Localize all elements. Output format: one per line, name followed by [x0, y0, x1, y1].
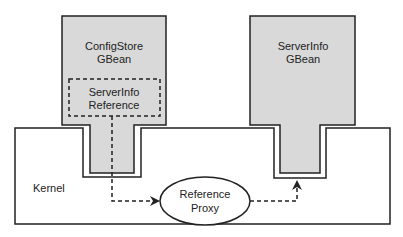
config-store-label-line2: GBean — [97, 53, 131, 65]
gbean-reference-diagram: ConfigStore GBean ServerInfo Reference S… — [0, 0, 403, 237]
reference-proxy-label-line2: Proxy — [191, 202, 220, 214]
reference-proxy-label-line1: Reference — [180, 188, 231, 200]
kernel-label: Kernel — [33, 182, 65, 194]
server-info-reference-label-line1: ServerInfo — [89, 86, 140, 98]
server-info-label-line1: ServerInfo — [278, 40, 329, 52]
server-info-reference-label-line2: Reference — [89, 99, 140, 111]
config-store-label-line1: ConfigStore — [85, 40, 143, 52]
server-info-label-line2: GBean — [286, 53, 320, 65]
reference-proxy-ellipse — [160, 177, 250, 225]
